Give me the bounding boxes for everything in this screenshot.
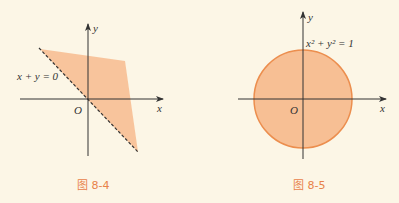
equation-label: x + y = 0 [16, 70, 59, 82]
figure-8-5: x² + y² = 1 O x y [238, 11, 386, 159]
diagram-canvas: x + y = 0 O x y x² + y² = 1 O x y [0, 0, 399, 203]
x-axis-label: x [379, 102, 385, 114]
y-axis-label: y [307, 11, 313, 23]
y-axis-label: y [92, 22, 98, 34]
x-axis-label: x [156, 102, 162, 114]
caption-figure-8-5: 图 8-5 [293, 176, 325, 192]
equation-label: x² + y² = 1 [305, 37, 354, 49]
origin-label: O [290, 104, 298, 116]
caption-figure-8-4: 图 8-4 [77, 176, 109, 192]
figure-8-4: x + y = 0 O x y [16, 22, 163, 156]
origin-label: O [74, 104, 82, 116]
